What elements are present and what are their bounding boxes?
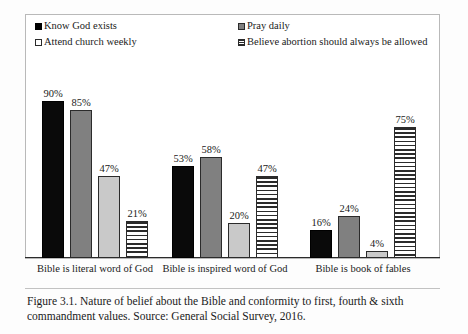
legend-label: Believe abortion should always be allowe… bbox=[247, 36, 428, 48]
bar-2-4[interactable] bbox=[256, 176, 278, 258]
category-label-2: Bible is inspired word of God bbox=[147, 262, 303, 276]
caption-divider bbox=[25, 288, 440, 289]
bar-value-label: 75% bbox=[387, 114, 423, 125]
bar-1-4[interactable] bbox=[126, 221, 148, 258]
bar-2-2[interactable] bbox=[200, 157, 222, 258]
legend-row-1: Know God exists Pray daily bbox=[26, 18, 439, 34]
chart-plot-area: 90%85%47%21%53%58%20%47%16%24%4%75% bbox=[25, 58, 440, 258]
legend-label: Attend church weekly bbox=[44, 36, 137, 48]
bar-value-label: 58% bbox=[193, 144, 229, 155]
legend-row-2: Attend church weekly Believe abortion sh… bbox=[26, 34, 439, 50]
legend-item-believe-abortion-allowed: Believe abortion should always be allowe… bbox=[238, 34, 438, 50]
chart-legend: Know God exists Pray daily Attend church… bbox=[26, 16, 439, 54]
bar-3-3[interactable] bbox=[366, 251, 388, 258]
bar-value-label: 21% bbox=[119, 208, 155, 219]
category-label-3: Bible is book of fables bbox=[285, 262, 441, 276]
bar-2-3[interactable] bbox=[228, 223, 250, 258]
bar-value-label: 85% bbox=[63, 97, 99, 108]
bar-1-2[interactable] bbox=[70, 110, 92, 258]
legend-item-attend-church-weekly: Attend church weekly bbox=[26, 34, 238, 50]
outlined-light-square-icon bbox=[35, 39, 42, 46]
bar-value-label: 24% bbox=[331, 203, 367, 214]
bar-1-3[interactable] bbox=[98, 176, 120, 258]
bar-value-label: 47% bbox=[91, 163, 127, 174]
bar-value-label: 4% bbox=[359, 238, 395, 249]
legend-label: Pray daily bbox=[247, 20, 290, 32]
bar-2-1[interactable] bbox=[172, 166, 194, 258]
bar-3-2[interactable] bbox=[338, 216, 360, 258]
legend-label: Know God exists bbox=[44, 20, 117, 32]
filled-black-square-icon bbox=[35, 23, 42, 30]
bar-3-4[interactable] bbox=[394, 127, 416, 258]
horizontal-striped-square-icon bbox=[238, 39, 245, 46]
bar-value-label: 20% bbox=[221, 210, 257, 221]
x-axis-category-labels: Bible is literal word of GodBible is ins… bbox=[25, 262, 440, 278]
figure-caption: Figure 3.1. Nature of belief about the B… bbox=[27, 294, 437, 324]
bar-value-label: 47% bbox=[249, 163, 285, 174]
bar-3-1[interactable] bbox=[310, 230, 332, 258]
filled-gray-square-icon bbox=[238, 23, 245, 30]
figure-container: Know God exists Pray daily Attend church… bbox=[0, 0, 468, 334]
legend-item-know-god-exists: Know God exists bbox=[26, 18, 238, 34]
bar-1-1[interactable] bbox=[42, 101, 64, 258]
bar-value-label: 16% bbox=[303, 217, 339, 228]
legend-item-pray-daily: Pray daily bbox=[238, 18, 438, 34]
